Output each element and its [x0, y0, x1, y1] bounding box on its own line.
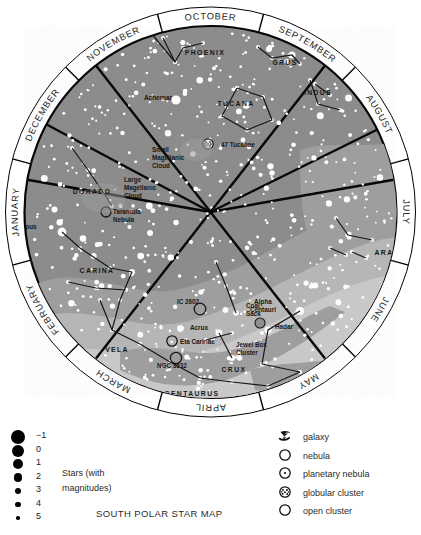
legend-symbol-label: open cluster	[303, 506, 352, 516]
legend-symbol-label: nebula	[303, 451, 330, 461]
open-cluster-icon	[277, 502, 295, 518]
legend-symbol-label: globular cluster	[303, 488, 364, 498]
galaxy-icon	[277, 428, 295, 444]
magnitude-dot-3	[15, 488, 22, 495]
magnitude-value: 4	[36, 498, 41, 508]
planetary-nebula-icon	[277, 465, 295, 481]
magnitude-value: 2	[36, 471, 41, 481]
grain-overlay	[25, 26, 397, 398]
magnitude-dot-5	[16, 516, 20, 520]
magnitude-dot-minus1	[11, 430, 25, 444]
magnitude-dot-2	[14, 473, 23, 482]
map-caption: SOUTH POLAR STAR MAP	[96, 508, 223, 519]
magnitude-value: −1	[36, 430, 46, 440]
star-map-svg: JANUARYFEBRUARYMARCHAPRILMAYJUNEJULYAUGU…	[0, 0, 421, 425]
stars-legend-label-line2: magnitudes)	[62, 483, 112, 493]
magnitude-value: 0	[36, 444, 41, 454]
magnitude-dot-0	[12, 445, 24, 457]
magnitude-dot-4	[15, 502, 20, 507]
month-label-january: JANUARY	[10, 187, 21, 237]
map-legend: −1012345 Stars (with magnitudes) SOUTH P…	[0, 424, 421, 535]
globular-cluster-icon	[277, 484, 295, 500]
magnitude-value: 1	[36, 457, 41, 467]
star-map: JANUARYFEBRUARYMARCHAPRILMAYJUNEJULYAUGU…	[0, 0, 421, 425]
nebula-icon	[277, 447, 295, 463]
legend-symbol-label: planetary nebula	[303, 469, 370, 479]
magnitude-value: 3	[36, 484, 41, 494]
stars-legend-label-line1: Stars (with	[62, 468, 105, 478]
month-label-april: APRIL	[195, 402, 227, 413]
month-label-july: JULY	[401, 199, 411, 225]
legend-symbol-label: galaxy	[303, 432, 329, 442]
magnitude-dot-1	[13, 459, 23, 469]
magnitude-value: 5	[36, 511, 41, 521]
month-label-october: OCTOBER	[184, 11, 237, 23]
